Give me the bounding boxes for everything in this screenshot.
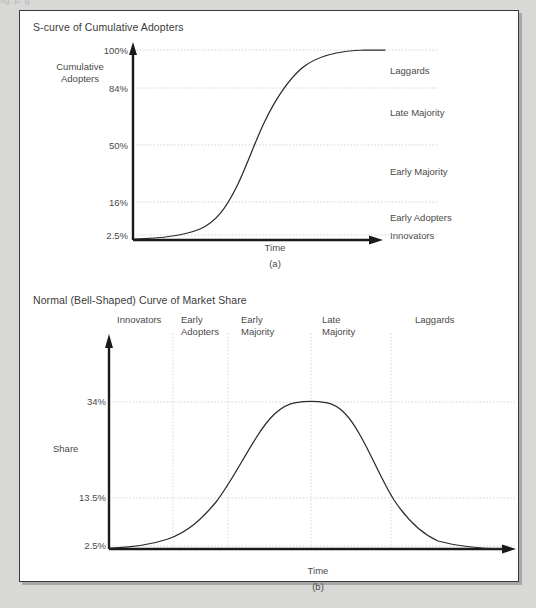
panel-b-plot <box>20 11 518 608</box>
figure-frame: S-curve of Cumulative Adopters Cumulativ… <box>19 10 519 582</box>
top-bleed-text: fig. p. g <box>0 0 536 9</box>
figure-page: fig. p. g S-curve of Cumulative Adopters… <box>0 0 536 608</box>
panel-b-bell-curve-line <box>110 401 503 548</box>
top-bleed-label: fig. p. g <box>0 0 30 5</box>
panel-b-y-axis-arrow <box>105 334 113 348</box>
